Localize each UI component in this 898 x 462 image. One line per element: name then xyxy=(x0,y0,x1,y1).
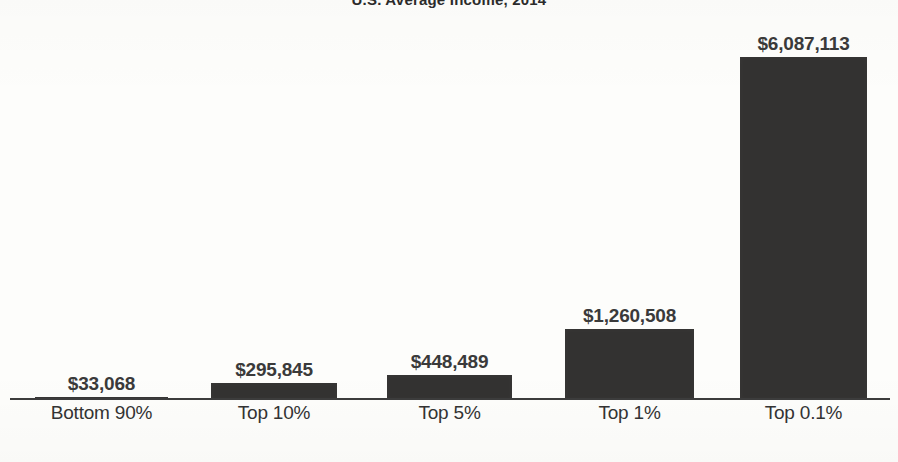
bar xyxy=(387,375,512,400)
bar-value-label: $6,087,113 xyxy=(757,33,849,55)
bar-group: $1,260,508 xyxy=(565,299,694,400)
x-axis-line xyxy=(10,398,890,400)
category-label-top-10: Top 10% xyxy=(211,402,337,424)
bar-value-label: $295,845 xyxy=(235,359,313,381)
bar-group: $6,087,113 xyxy=(740,27,867,400)
bar xyxy=(740,57,867,400)
plot-area: $33,068$295,845$448,489$1,260,508$6,087,… xyxy=(0,0,898,400)
bar-chart: U.S. Average Income, 2014 $33,068$295,84… xyxy=(0,0,898,462)
category-label-bottom-90: Bottom 90% xyxy=(35,402,168,424)
bar-group: $33,068 xyxy=(35,367,168,400)
bar-group: $448,489 xyxy=(387,345,512,400)
bar-group: $295,845 xyxy=(211,353,337,400)
bar-value-label: $1,260,508 xyxy=(583,305,676,327)
category-label-top-0-1: Top 0.1% xyxy=(740,402,867,424)
category-label-top-5: Top 5% xyxy=(387,402,512,424)
bar-value-label: $33,068 xyxy=(68,373,135,395)
bar xyxy=(565,329,694,400)
category-label-top-1: Top 1% xyxy=(565,402,694,424)
category-label-row: Bottom 90%Top 10%Top 5%Top 1%Top 0.1% xyxy=(0,402,898,432)
bar-value-label: $448,489 xyxy=(411,351,489,373)
